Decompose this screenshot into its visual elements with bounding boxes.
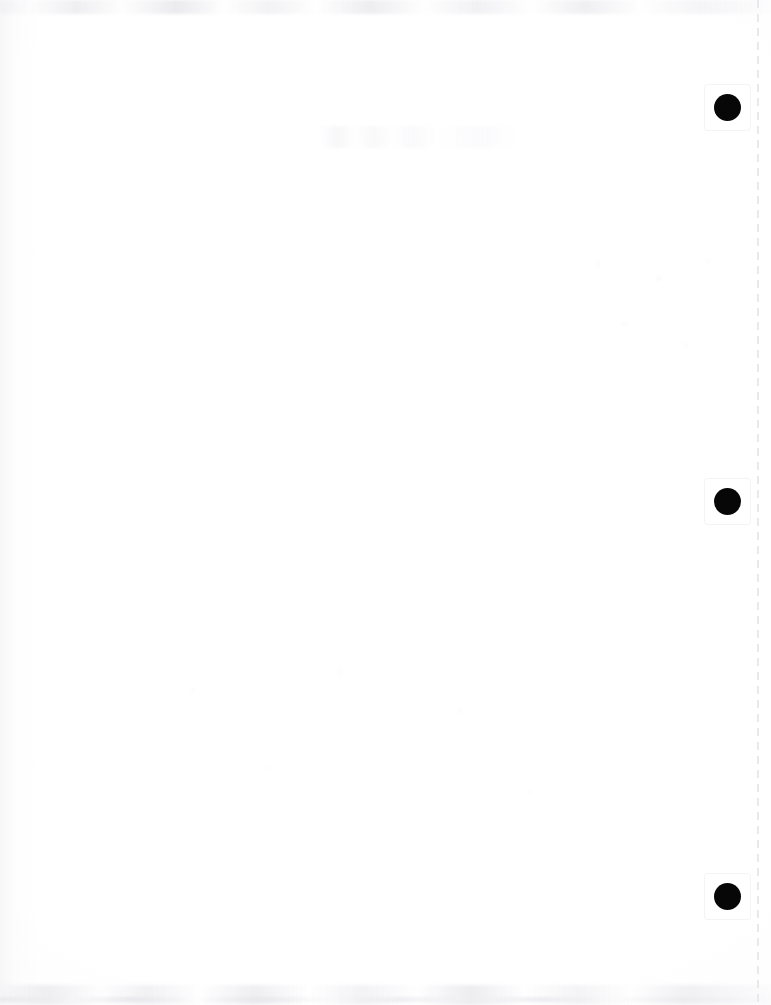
page-body-text	[60, 60, 700, 940]
scanned-document-page	[0, 0, 771, 1005]
punch-hole-top	[714, 94, 741, 121]
punch-hole-middle	[714, 488, 741, 515]
punch-hole-bottom	[714, 883, 741, 910]
